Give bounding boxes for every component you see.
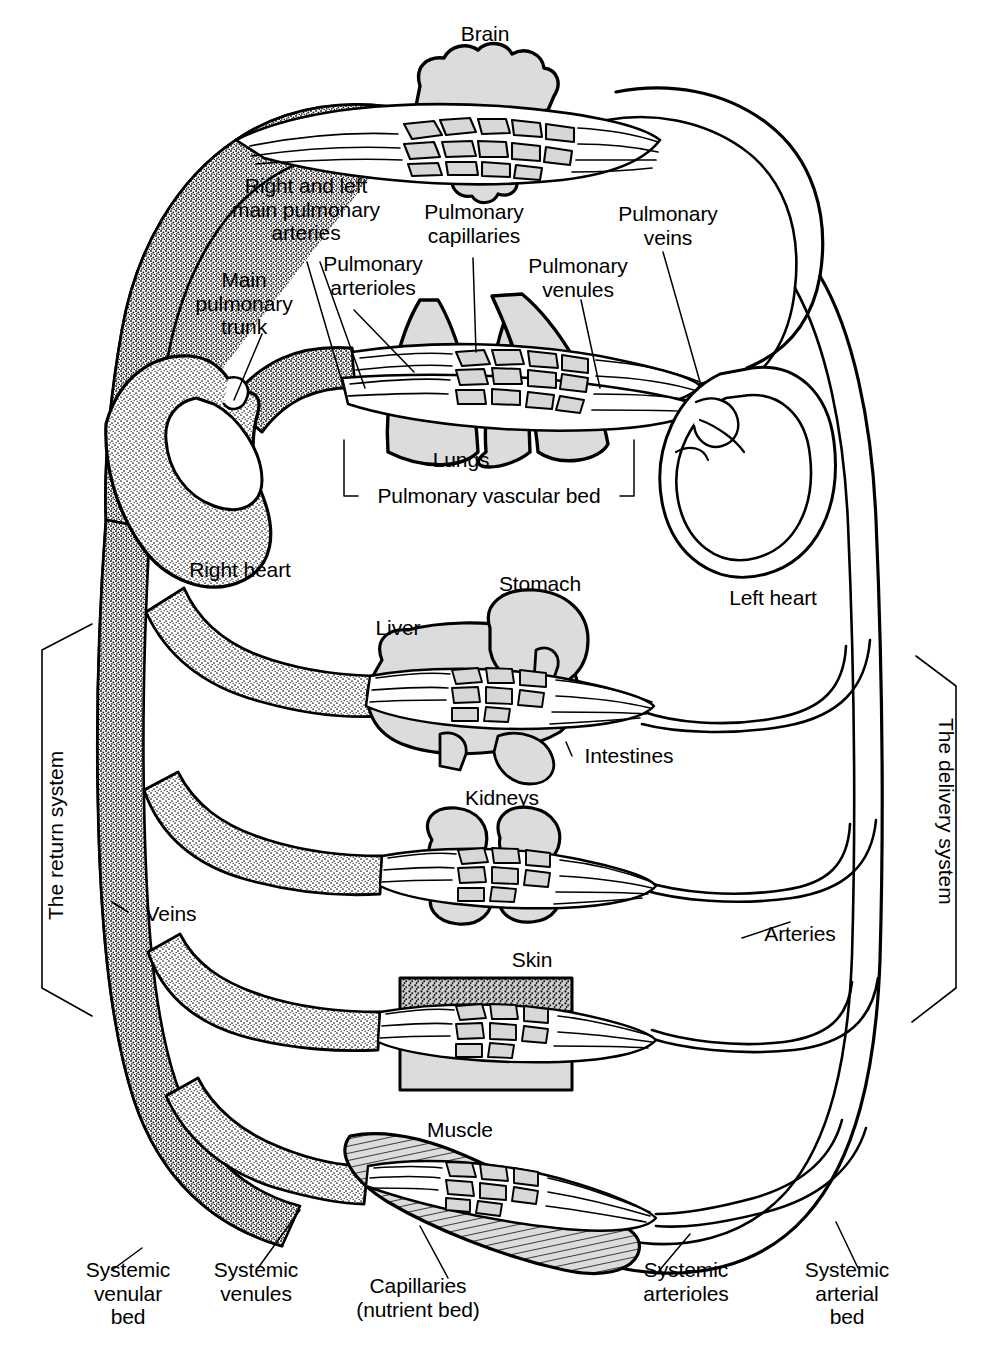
label-pulmonary-capillaries: Pulmonary capillaries <box>404 200 544 247</box>
label-systemic-venules: Systemic venules <box>198 1258 314 1305</box>
label-main-pulmonary-trunk: Main pulmonary trunk <box>178 268 310 339</box>
label-systemic-capillaries: Capillaries (nutrient bed) <box>320 1274 516 1321</box>
label-brain: Brain <box>430 22 540 46</box>
label-pulmonary-venules: Pulmonary venules <box>508 254 648 301</box>
label-veins: Veins <box>126 902 216 926</box>
label-kidneys: Kidneys <box>444 786 560 810</box>
label-return-system: The return system <box>44 751 68 920</box>
label-right-heart: Right heart <box>170 558 310 582</box>
skin-bed <box>378 978 656 1090</box>
left-heart <box>660 367 836 577</box>
label-muscle: Muscle <box>402 1118 518 1142</box>
label-pulmonary-vascular-bed: Pulmonary vascular bed <box>356 484 622 508</box>
label-pulmonary-veins: Pulmonary veins <box>598 202 738 249</box>
label-pulmonary-arterioles: Pulmonary arterioles <box>298 252 448 299</box>
label-liver: Liver <box>350 616 446 640</box>
kidney-bed <box>380 807 656 924</box>
label-arteries: Arteries <box>748 922 852 946</box>
label-stomach: Stomach <box>478 572 602 596</box>
arterial-outer-loop <box>607 88 882 1273</box>
label-skin: Skin <box>492 948 572 972</box>
label-systemic-arterial-bed: Systemic arterial bed <box>790 1258 904 1329</box>
label-left-heart: Left heart <box>710 586 836 610</box>
circulatory-diagram: Brain Right and left main pulmonary arte… <box>0 0 990 1370</box>
label-delivery-system: The delivery system <box>934 718 958 905</box>
muscle-bed <box>345 1134 656 1274</box>
label-intestines: Intestines <box>570 744 688 768</box>
label-systemic-arterioles: Systemic arterioles <box>618 1258 754 1305</box>
label-lungs: Lungs <box>406 448 516 472</box>
label-main-pulmonary-arteries: Right and left main pulmonary arteries <box>216 174 396 245</box>
venous-branches <box>144 588 384 1204</box>
label-systemic-venular-bed: Systemic venular bed <box>76 1258 180 1329</box>
